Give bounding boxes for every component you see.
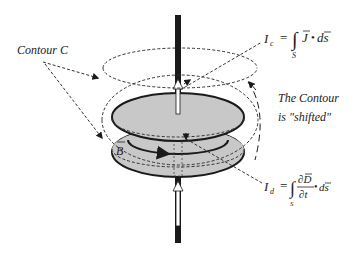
svg-text:=: = [280, 30, 287, 45]
svg-text:I: I [263, 179, 269, 194]
b-field-label: B [116, 144, 124, 158]
capacitor-displacement-current-diagram: Contour C The Contour is "shifted" B I c… [0, 0, 362, 257]
current-arrow-lower [173, 181, 183, 226]
contour-c-pointers [43, 62, 102, 138]
svg-text:•: • [311, 31, 315, 43]
contour-c-label: Contour C [17, 43, 69, 57]
svg-text:J: J [302, 30, 309, 45]
svg-text:∂D: ∂D [298, 173, 311, 185]
svg-text:I: I [263, 31, 269, 46]
svg-text:∫: ∫ [289, 178, 296, 199]
svg-text:=: = [280, 178, 287, 193]
equation-displacement-current: I d = ∫ S ∂D ∂t • ds [263, 173, 331, 208]
svg-text:S: S [292, 51, 296, 60]
svg-text:c: c [270, 39, 274, 48]
svg-text:d: d [270, 187, 275, 196]
svg-text:∂t: ∂t [299, 188, 308, 200]
svg-text:S: S [290, 200, 294, 208]
shifted-label-line2: is "shifted" [278, 110, 332, 124]
shifted-label-line1: The Contour [278, 91, 339, 105]
equation-conduction-current: I c = ∫ S J • ds [263, 28, 331, 60]
svg-text:•: • [314, 181, 318, 192]
svg-text:∫: ∫ [290, 28, 299, 52]
